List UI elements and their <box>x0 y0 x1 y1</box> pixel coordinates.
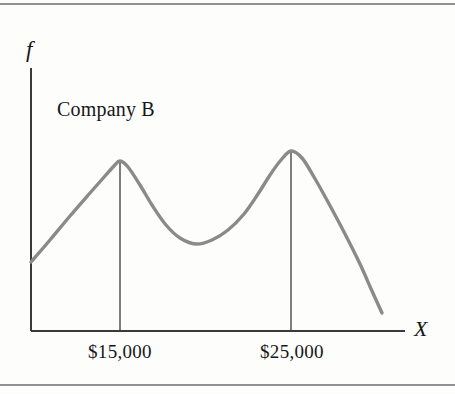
x-tick-label-25000: $25,000 <box>260 341 324 363</box>
figure-container: f X Company B $15,000 $25,000 <box>0 0 455 394</box>
x-axis-label: X <box>414 318 427 340</box>
chart-plot-area <box>0 0 455 394</box>
distribution-curve <box>31 151 382 313</box>
x-tick-label-15000: $15,000 <box>88 341 152 363</box>
series-annotation-label: Company B <box>57 99 155 119</box>
y-axis-label: f <box>26 38 32 61</box>
